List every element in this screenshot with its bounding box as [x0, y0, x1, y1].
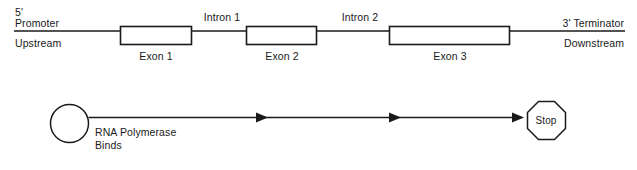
rna-polymerase-label-line-1: RNA Polymerase	[95, 126, 176, 138]
intron-1-label: Intron 1	[204, 11, 240, 23]
exon-2-label: Exon 2	[265, 50, 298, 62]
exon-3-box	[390, 27, 510, 45]
intron-2-label: Intron 2	[342, 11, 378, 23]
exon-2-box	[247, 27, 317, 45]
stop-label: Stop	[536, 115, 557, 127]
exon-3-label: Exon 3	[433, 50, 466, 62]
arrowhead-3	[512, 113, 524, 123]
upstream-label: Upstream	[15, 37, 61, 49]
three-prime-terminator-label: 3' Terminator	[563, 17, 624, 29]
rna-polymerase-circle	[51, 105, 89, 143]
exon-1-box	[121, 27, 192, 45]
downstream-label: Downstream	[564, 37, 624, 49]
arrowhead-1	[256, 113, 268, 123]
diagram-canvas: 5' Promoter Upstream Intron 1 Intron 2 3…	[0, 0, 637, 170]
promoter-label: Promoter	[15, 17, 59, 29]
exon-1-label: Exon 1	[139, 50, 172, 62]
rna-polymerase-label-line-2: Binds	[95, 139, 122, 151]
arrowhead-2	[389, 113, 401, 123]
exon-boxes	[121, 27, 510, 45]
